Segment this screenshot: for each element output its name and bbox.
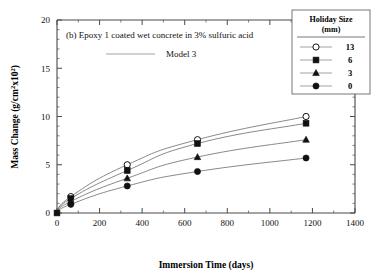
data-point-filled-square <box>303 120 309 126</box>
data-point-filled-circle <box>194 168 200 174</box>
legend-title-line2: (mm) <box>322 25 341 34</box>
x-tick-label: 0 <box>55 218 60 228</box>
y-tick-label: 0 <box>46 208 51 218</box>
legend-title-line1: Holiday Size <box>310 15 353 24</box>
data-point-filled-square <box>124 168 130 174</box>
x-tick-label: 200 <box>93 218 107 228</box>
chart-figure: 020040060080010001200140005101520 Immers… <box>0 0 380 279</box>
y-axis-title: Mass Change (g/cm2x102) <box>9 65 21 169</box>
chart-svg: 020040060080010001200140005101520 Immers… <box>0 0 380 279</box>
legend-marker-filled-square <box>313 57 319 63</box>
legend-entry-label: 6 <box>348 55 352 65</box>
data-point-filled-square <box>195 141 201 147</box>
data-point-filled-circle <box>68 201 74 207</box>
legend-entry-label: 13 <box>346 42 355 52</box>
legend-entry-label: 0 <box>348 81 352 91</box>
y-axis-title-close: ) <box>10 65 21 68</box>
x-axis-title: Immersion Time (days) <box>159 260 254 271</box>
x-tick-label: 1400 <box>346 218 365 228</box>
y-tick-label: 20 <box>41 15 51 25</box>
svg-text:Mass Change (g/cm2x102): Mass Change (g/cm2x102) <box>9 65 21 169</box>
model-label: Model 3 <box>166 49 197 59</box>
legend-marker-filled-circle <box>313 83 319 89</box>
x-tick-label: 800 <box>221 218 235 228</box>
x-tick-label: 1000 <box>261 218 280 228</box>
y-tick-label: 5 <box>46 160 51 170</box>
y-axis-title-main: Mass Change (g/cm <box>10 89 21 169</box>
x-tick-label: 1200 <box>303 218 322 228</box>
legend: Holiday Size (mm) 13630 <box>292 10 370 94</box>
data-point-filled-circle <box>303 155 309 161</box>
panel-title: (b) Epoxy 1 coated wet concrete in 3% su… <box>66 30 254 40</box>
data-point-filled-circle <box>124 183 130 189</box>
legend-entry-label: 3 <box>348 68 352 78</box>
data-point-open-circle <box>124 162 130 168</box>
y-tick-label: 10 <box>41 112 51 122</box>
data-point-open-circle <box>303 113 309 119</box>
y-axis-title-mid: x10 <box>10 71 20 86</box>
legend-marker-open-circle <box>313 44 319 50</box>
x-tick-label: 400 <box>135 218 149 228</box>
data-point-origin <box>54 210 60 216</box>
x-tick-label: 600 <box>178 218 192 228</box>
y-tick-label: 15 <box>41 64 51 74</box>
origin-marker-cluster <box>54 210 60 216</box>
